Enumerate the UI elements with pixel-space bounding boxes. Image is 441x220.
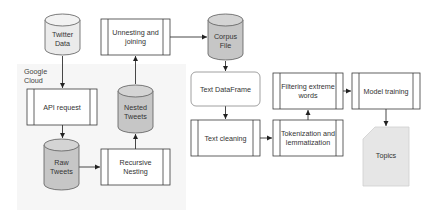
twitter-data-label: Twitter Data [45, 26, 80, 52]
model-training-label: Model training [359, 73, 413, 109]
google-cloud-label: Google Cloud [24, 67, 47, 86]
topics-label: Topics [363, 140, 409, 170]
unnesting-joining-label: Unnesting and joining [108, 19, 163, 55]
corpus-file-label: Corpus File [208, 27, 243, 55]
nested-tweets-label: Nested Tweets [118, 97, 153, 127]
filtering-label: Filtering extreme words [278, 73, 338, 109]
raw-tweets-label: Raw Tweets [44, 153, 79, 181]
text-dataframe-label: Text DataFrame [191, 72, 260, 106]
google-cloud-group [17, 64, 186, 210]
api-request-label: API request [34, 89, 90, 125]
tokenization-label: Tokenization and lemmatization [278, 120, 338, 156]
recursive-nesting-label: Recursive Nesting [108, 149, 163, 185]
text-cleaning-label: Text cleaning [198, 120, 253, 156]
